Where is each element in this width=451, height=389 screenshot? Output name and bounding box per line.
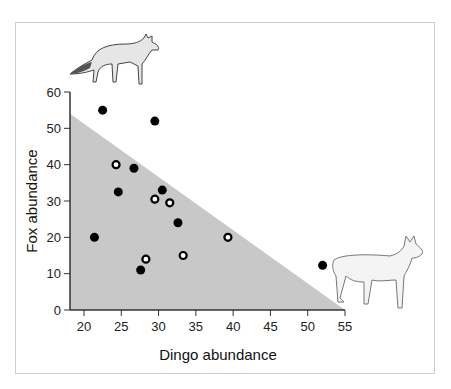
data-point-open bbox=[142, 256, 149, 263]
shaded-region bbox=[70, 114, 345, 310]
y-tick-label: 10 bbox=[47, 266, 61, 281]
y-tick-label: 20 bbox=[47, 230, 61, 245]
data-point-open bbox=[180, 252, 187, 259]
data-point-filled bbox=[90, 233, 99, 242]
x-tick-label: 20 bbox=[77, 319, 91, 334]
scatter-chart: 01020304050602025303540455055 Dingo abun… bbox=[0, 0, 451, 389]
y-tick-label: 60 bbox=[47, 85, 61, 100]
y-axis-title: Fox abundance bbox=[23, 149, 40, 252]
y-tick-label: 0 bbox=[54, 303, 61, 318]
shaded-triangle bbox=[70, 114, 345, 310]
data-point-filled bbox=[318, 261, 327, 270]
x-axis-title: Dingo abundance bbox=[159, 346, 277, 363]
x-tick-label: 35 bbox=[189, 319, 203, 334]
y-tick-label: 50 bbox=[47, 121, 61, 136]
data-point-filled bbox=[158, 186, 167, 195]
data-point-filled bbox=[114, 187, 123, 196]
x-tick-label: 25 bbox=[114, 319, 128, 334]
x-tick-label: 50 bbox=[300, 319, 314, 334]
dingo-illustration-icon bbox=[333, 236, 423, 308]
data-point-open bbox=[166, 199, 173, 206]
data-point-filled bbox=[129, 164, 138, 173]
x-tick-label: 55 bbox=[338, 319, 352, 334]
data-point-open bbox=[113, 161, 120, 168]
data-point-filled bbox=[173, 218, 182, 227]
data-point-filled bbox=[136, 266, 145, 275]
fox-illustration-icon bbox=[70, 34, 159, 84]
data-point-open bbox=[151, 196, 158, 203]
x-tick-label: 40 bbox=[226, 319, 240, 334]
data-point-filled bbox=[98, 106, 107, 115]
x-tick-label: 30 bbox=[151, 319, 165, 334]
y-tick-label: 30 bbox=[47, 194, 61, 209]
data-point-open bbox=[224, 234, 231, 241]
y-tick-label: 40 bbox=[47, 157, 61, 172]
data-point-filled bbox=[150, 117, 159, 126]
x-tick-label: 45 bbox=[263, 319, 277, 334]
